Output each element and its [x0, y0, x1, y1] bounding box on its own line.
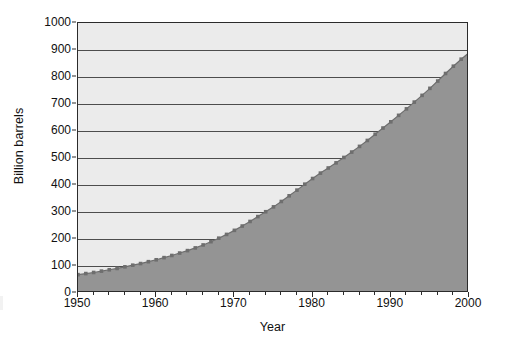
y-axis-title: Billion barrels	[4, 0, 34, 292]
data-point-marker	[459, 57, 463, 61]
x-axis-tick-mark	[171, 292, 172, 295]
data-point-marker	[389, 120, 393, 124]
data-point-marker	[334, 161, 338, 165]
y-axis-tick-label: 500	[51, 151, 71, 163]
series-area-path	[78, 23, 468, 292]
x-axis-tick-mark	[421, 292, 422, 295]
y-axis-title-text: Billion barrels	[12, 108, 26, 185]
y-axis-tick-mark	[72, 157, 76, 158]
data-point-marker	[209, 240, 213, 244]
x-axis-tick-mark	[218, 292, 219, 295]
y-axis-tick-mark	[72, 238, 76, 239]
x-axis-tick-mark	[202, 292, 203, 295]
data-point-marker	[240, 224, 244, 228]
x-axis-tick-mark	[374, 292, 375, 295]
x-axis-tick-mark	[359, 292, 360, 295]
y-axis-tick-mark	[72, 22, 76, 23]
x-axis-tick-mark	[93, 292, 94, 295]
data-point-marker	[84, 272, 88, 276]
plot-area	[77, 22, 468, 292]
data-point-marker	[139, 262, 143, 266]
data-point-marker	[248, 220, 252, 224]
data-point-marker	[78, 273, 80, 277]
y-axis-tick-label: 600	[51, 124, 71, 136]
y-axis-tick-label: 900	[51, 43, 71, 55]
data-point-marker	[436, 79, 440, 83]
x-axis-tick-label: 1980	[298, 296, 325, 310]
x-axis-tick-mark	[327, 292, 328, 295]
y-axis-tick-label: 1000	[44, 16, 71, 28]
data-point-marker	[170, 254, 174, 258]
data-point-marker	[201, 243, 205, 247]
y-axis-tick-label: 700	[51, 97, 71, 109]
y-axis-tick-mark	[72, 76, 76, 77]
data-point-marker	[428, 87, 432, 91]
data-point-marker	[295, 188, 299, 192]
data-point-marker	[350, 150, 354, 154]
data-point-marker	[107, 268, 111, 272]
y-axis-tick-label: 300	[51, 205, 71, 217]
y-axis-tick-mark	[72, 184, 76, 185]
data-point-marker	[131, 263, 135, 267]
x-axis-tick-mark	[405, 292, 406, 295]
y-axis-tick-mark	[72, 49, 76, 50]
data-point-marker	[92, 271, 96, 275]
y-axis-tick-mark	[72, 103, 76, 104]
data-point-marker	[420, 94, 424, 98]
data-point-marker	[194, 246, 198, 250]
data-point-marker	[225, 233, 229, 237]
data-point-marker	[147, 260, 151, 264]
y-axis-tick-label: 200	[51, 232, 71, 244]
data-point-marker	[280, 200, 284, 204]
data-point-marker	[287, 194, 291, 198]
data-point-marker	[233, 229, 237, 233]
x-axis-tick-label: 1990	[376, 296, 403, 310]
data-point-marker	[178, 251, 182, 255]
y-axis-tick-label: 800	[51, 70, 71, 82]
data-point-marker	[303, 182, 307, 186]
y-axis-tick-label: 400	[51, 178, 71, 190]
data-point-marker	[162, 256, 166, 260]
data-point-marker	[381, 126, 385, 130]
y-axis-tick-mark	[72, 211, 76, 212]
x-axis-tick-label: 1950	[64, 296, 91, 310]
x-axis-tick-mark	[249, 292, 250, 295]
data-point-marker	[358, 145, 362, 149]
area-fill	[78, 53, 468, 292]
cumulative-oil-production-chart: Billion barrels 010020030040050060070080…	[0, 0, 507, 349]
data-point-marker	[342, 156, 346, 160]
data-point-marker	[272, 205, 276, 209]
x-axis-tick-mark	[452, 292, 453, 295]
x-axis-tick-label: 1970	[220, 296, 247, 310]
data-point-marker	[412, 100, 416, 104]
scan-edge-artifact	[0, 296, 3, 310]
x-axis-tick-labels: 195019601970198019902000	[0, 296, 507, 316]
x-axis-tick-mark	[437, 292, 438, 295]
y-axis-tick-mark	[72, 130, 76, 131]
data-point-marker	[154, 258, 158, 262]
x-axis-tick-mark	[343, 292, 344, 295]
x-axis-tick-label: 2000	[455, 296, 482, 310]
data-point-marker	[326, 166, 330, 170]
y-axis-tick-label: 100	[51, 259, 71, 271]
x-axis-tick-mark	[280, 292, 281, 295]
data-point-marker	[319, 171, 323, 175]
data-point-marker	[100, 269, 104, 273]
x-axis-tick-label: 1960	[142, 296, 169, 310]
data-point-marker	[115, 267, 119, 271]
data-point-marker	[444, 72, 448, 76]
data-point-marker	[311, 177, 315, 181]
x-axis-tick-mark	[124, 292, 125, 295]
data-point-marker	[123, 265, 127, 269]
data-point-marker	[256, 215, 260, 219]
data-point-marker	[397, 114, 401, 118]
data-point-marker	[366, 139, 370, 143]
x-axis-tick-mark	[108, 292, 109, 295]
x-axis-tick-mark	[265, 292, 266, 295]
data-point-marker	[467, 51, 468, 55]
y-axis-tick-mark	[72, 265, 76, 266]
data-point-marker	[452, 64, 456, 68]
data-point-marker	[264, 210, 268, 214]
x-axis-tick-mark	[140, 292, 141, 295]
data-point-marker	[186, 249, 190, 253]
